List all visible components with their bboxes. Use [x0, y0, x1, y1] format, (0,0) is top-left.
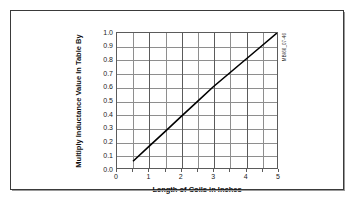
y-tick-label: 0.3	[91, 124, 113, 131]
y-tick-label: 0.9	[91, 42, 113, 49]
x-tick-mark	[229, 169, 230, 172]
x-tick-mark	[278, 169, 279, 172]
figure-border-frame: Multiply Inductance Value In Table By 0.…	[10, 10, 344, 190]
y-tick-label: 0.8	[91, 56, 113, 63]
plot-area	[116, 32, 278, 169]
x-axis-title: Length of Coils in Inches	[116, 185, 278, 194]
y-axis-title: Multiply Inductance Value In Table By	[10, 0, 22, 33]
y-tick-label: 0.1	[91, 152, 113, 159]
y-axis-title-text: Multiply Inductance Value In Table By	[74, 33, 83, 169]
y-tick-label: 0.5	[91, 97, 113, 104]
x-tick-label: 1	[138, 173, 158, 181]
figure-id-label: MBI66_07-46	[282, 0, 290, 33]
y-axis-tick-labels: 0.00.10.20.30.40.50.60.70.80.91.0	[89, 32, 113, 169]
x-tick-mark	[262, 169, 263, 172]
y-tick-label: 0.2	[91, 138, 113, 145]
x-tick-mark	[181, 169, 182, 172]
y-tick-label: 1.0	[91, 29, 113, 36]
figure-id-text: MBI66_07-46	[282, 33, 288, 73]
y-tick-label: 0.4	[91, 111, 113, 118]
x-tick-label: 3	[203, 173, 223, 181]
x-tick-mark	[213, 169, 214, 172]
y-tick-label: 0.7	[91, 70, 113, 77]
x-tick-mark	[246, 169, 247, 172]
x-tick-label: 0	[106, 173, 126, 181]
x-tick-mark	[116, 169, 117, 172]
x-tick-mark	[197, 169, 198, 172]
y-tick-label: 0.6	[91, 83, 113, 90]
data-polyline	[133, 33, 277, 161]
x-tick-label: 4	[236, 173, 256, 181]
x-axis-tick-labels: 012345	[116, 173, 278, 183]
y-tick-label: 0.0	[91, 166, 113, 173]
data-line-series	[117, 33, 277, 168]
x-tick-mark	[165, 169, 166, 172]
figure-root: Multiply Inductance Value In Table By 0.…	[0, 0, 357, 201]
x-tick-label: 5	[268, 173, 288, 181]
x-tick-label: 2	[171, 173, 191, 181]
x-tick-mark	[148, 169, 149, 172]
x-tick-mark	[132, 169, 133, 172]
